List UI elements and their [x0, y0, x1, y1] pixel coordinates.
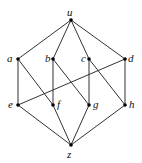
node-label-f: f [57, 99, 60, 110]
edge-u-d [71, 20, 125, 59]
edge-a-f [18, 59, 53, 105]
node-label-d: d [128, 53, 134, 64]
hasse-diagram: uabcdefghz [0, 0, 142, 163]
edge-g-z [71, 105, 89, 145]
edge-u-c [71, 20, 89, 59]
node-a [16, 57, 20, 61]
edge-h-z [71, 105, 125, 145]
node-label-g: g [93, 99, 99, 110]
edge-u-b [53, 20, 71, 59]
edge-f-z [53, 105, 71, 145]
edge-e-z [18, 105, 71, 145]
node-b [51, 57, 55, 61]
node-u [69, 18, 73, 22]
node-label-a: a [7, 53, 13, 64]
node-e [16, 103, 20, 107]
edge-d-e [18, 59, 125, 105]
node-label-e: e [8, 99, 13, 110]
node-label-u: u [67, 7, 73, 18]
node-label-h: h [129, 99, 135, 110]
node-d [123, 57, 127, 61]
node-g [87, 103, 91, 107]
node-label-z: z [67, 149, 71, 160]
node-h [123, 103, 127, 107]
node-z [69, 143, 73, 147]
node-label-c: c [81, 53, 86, 64]
diagram-edges [0, 0, 142, 163]
node-label-b: b [45, 53, 51, 64]
node-f [51, 103, 55, 107]
node-c [87, 57, 91, 61]
